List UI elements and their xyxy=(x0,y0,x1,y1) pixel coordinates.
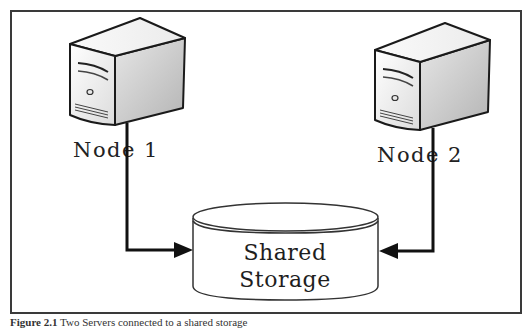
arrowhead-icon xyxy=(174,242,193,258)
caption-text: Two Servers connected to a shared storag… xyxy=(60,316,247,328)
node-2-label: Node 2 xyxy=(377,143,463,167)
figure-number: Figure 2.1 xyxy=(10,316,57,328)
node-1-label: Node 1 xyxy=(73,138,159,162)
figure-caption: Figure 2.1 Two Servers connected to a sh… xyxy=(10,316,247,328)
storage-label-line1: Shared xyxy=(244,240,327,265)
shared-storage: Shared Storage xyxy=(193,203,378,300)
server-tower-icon xyxy=(70,18,185,125)
storage-label-line2: Storage xyxy=(239,267,330,292)
arrowhead-icon xyxy=(379,243,398,259)
server-tower-icon xyxy=(375,23,490,130)
